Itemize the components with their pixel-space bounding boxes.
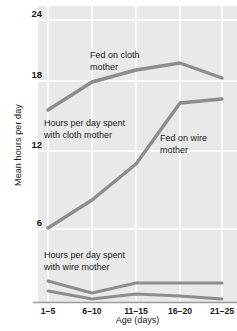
line-chart: 24 18 12 6 1–5 6–10 11–15 16–20 21–25 Me…: [0, 0, 237, 331]
y-axis-title: Mean hours per day: [13, 80, 23, 210]
annotation-fed-on-wire-mother: Fed on wire mother: [160, 133, 207, 156]
y-tick-24: 24: [18, 8, 42, 19]
annotation-hours-with-wire-mother: Hours per day spent with wire mother: [44, 250, 125, 273]
y-tick-18: 18: [18, 69, 42, 80]
x-axis-title: Age (days): [38, 315, 237, 325]
annotation-hours-with-cloth-mother: Hours per day spent with cloth mother: [44, 118, 125, 141]
annotation-fed-on-cloth-mother: Fed on cloth mother: [90, 50, 140, 73]
y-tick-6: 6: [18, 217, 42, 228]
